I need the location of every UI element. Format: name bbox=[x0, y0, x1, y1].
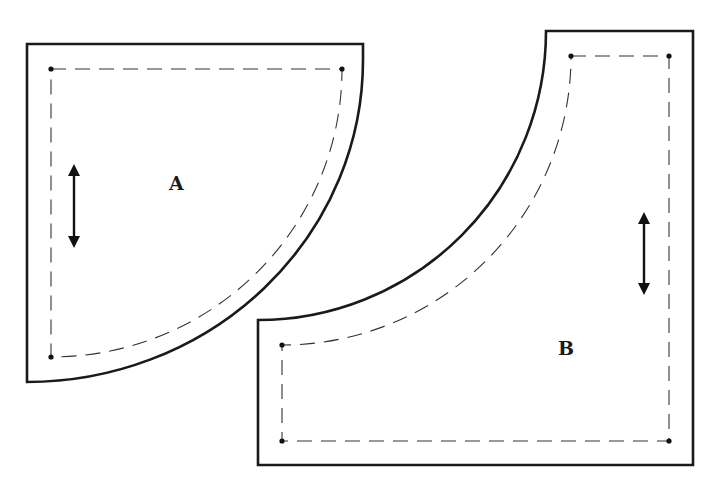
piece-a-corner-dot bbox=[48, 66, 53, 71]
piece-b-corner-dot bbox=[279, 438, 284, 443]
piece-b-corner-dot bbox=[568, 53, 573, 58]
piece-a-seam-line bbox=[51, 69, 342, 357]
piece-b-label: B bbox=[558, 337, 574, 359]
pattern-diagram: A B bbox=[0, 0, 720, 492]
piece-b-corner-dot bbox=[666, 438, 671, 443]
piece-a-corner-dot bbox=[339, 66, 344, 71]
piece-b-seam-line bbox=[282, 56, 669, 441]
piece-b-corner-dot bbox=[279, 342, 284, 347]
piece-b-cut-line bbox=[258, 31, 693, 465]
piece-a-corner-dot bbox=[48, 354, 53, 359]
piece-a-label: A bbox=[168, 172, 184, 194]
piece-b-corner-dot bbox=[666, 53, 671, 58]
pattern-piece-b: B bbox=[258, 31, 693, 465]
piece-a-cut-line bbox=[27, 44, 363, 382]
pattern-piece-a: A bbox=[27, 44, 363, 382]
